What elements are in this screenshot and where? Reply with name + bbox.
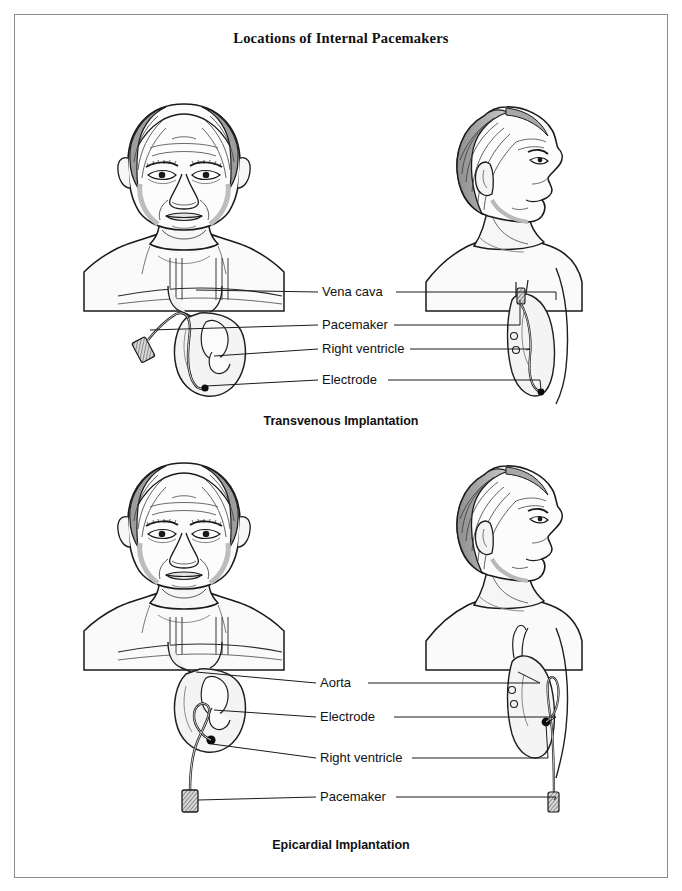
caption-transvenous: Transvenous Implantation bbox=[0, 414, 682, 428]
label-pacemaker-bottom: Pacemaker bbox=[320, 789, 386, 804]
label-right-ventricle-bottom: Right ventricle bbox=[320, 750, 402, 765]
label-electrode-top: Electrode bbox=[322, 372, 377, 387]
label-aorta: Aorta bbox=[320, 675, 351, 690]
label-electrode-bottom: Electrode bbox=[320, 709, 375, 724]
page-title: Locations of Internal Pacemakers bbox=[0, 30, 682, 47]
page-border bbox=[14, 14, 668, 878]
caption-epicardial: Epicardial Implantation bbox=[0, 838, 682, 852]
label-pacemaker-top: Pacemaker bbox=[322, 317, 388, 332]
label-vena-cava: Vena cava bbox=[322, 284, 383, 299]
label-right-ventricle-top: Right ventricle bbox=[322, 341, 404, 356]
illustration-page: Locations of Internal Pacemakers bbox=[0, 0, 682, 891]
